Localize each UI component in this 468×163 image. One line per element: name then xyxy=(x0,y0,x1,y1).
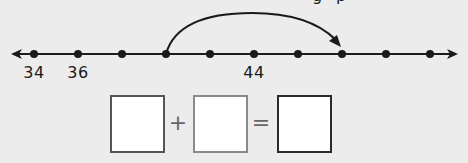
addend-1-box[interactable] xyxy=(110,95,165,153)
tick-label: 34 xyxy=(19,63,49,82)
tick-dot xyxy=(294,50,302,58)
jump-arc xyxy=(166,13,336,54)
tick-dot xyxy=(30,50,38,58)
tick-label: 44 xyxy=(239,63,269,82)
equals-sign: = xyxy=(251,108,271,138)
tick-label: 36 xyxy=(63,63,93,82)
sum-box[interactable] xyxy=(277,95,332,153)
tick-dot xyxy=(426,50,434,58)
tick-dot xyxy=(382,50,390,58)
number-line-exercise: g p 34 36 44 + = xyxy=(0,0,468,163)
tick-dot xyxy=(338,50,346,58)
tick-dot xyxy=(206,50,214,58)
addend-2-box[interactable] xyxy=(193,95,248,153)
jump-arrowhead-icon xyxy=(329,35,341,47)
plus-sign: + xyxy=(168,108,188,138)
tick-dot xyxy=(74,50,82,58)
tick-dot xyxy=(250,50,258,58)
tick-dot xyxy=(118,50,126,58)
